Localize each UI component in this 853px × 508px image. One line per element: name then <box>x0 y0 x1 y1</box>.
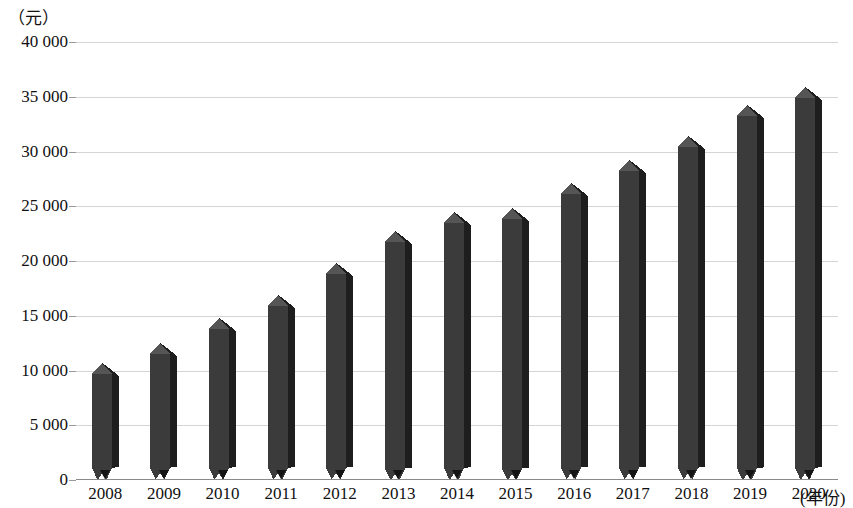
y-axis-tick-label: 0 <box>0 470 76 490</box>
x-axis-tick-mark <box>628 470 638 479</box>
y-axis-tick-mark <box>69 42 76 43</box>
x-axis-tick-mark <box>569 470 579 479</box>
y-axis-tick-labels: 40 00035 00030 00025 00020 00015 00010 0… <box>0 42 76 480</box>
bar-column <box>678 136 705 480</box>
plot-area <box>76 42 838 480</box>
bar-column <box>92 363 119 480</box>
x-axis-tick-label: 2015 <box>499 484 533 504</box>
bar-column <box>795 87 822 480</box>
bar-chart: （元） 40 00035 00030 00025 00020 00015 000… <box>0 0 853 508</box>
y-axis-tick-label: 35 000 <box>0 87 76 107</box>
x-axis-tick-label: 2014 <box>440 484 474 504</box>
x-axis-tick-mark <box>804 470 814 479</box>
x-axis-tick-mark <box>218 470 228 479</box>
bar-series <box>76 42 838 480</box>
y-axis-tick-mark <box>69 316 76 317</box>
bar-column <box>502 208 529 480</box>
x-axis: 2008200920102011201220132014201520162017… <box>76 480 838 508</box>
bar-column <box>561 183 588 480</box>
x-axis-tick-label: 2019 <box>733 484 767 504</box>
x-axis-tick-mark <box>452 470 462 479</box>
x-axis-tick-label: 2010 <box>206 484 240 504</box>
x-axis-tick-mark <box>159 470 169 479</box>
x-axis-tick-label: 2013 <box>381 484 415 504</box>
bar-column <box>385 231 412 480</box>
x-axis-tick-label: 2011 <box>264 484 297 504</box>
bar-column <box>444 212 471 480</box>
x-axis-tick-label: 2008 <box>88 484 122 504</box>
y-axis-tick-mark <box>69 371 76 372</box>
x-axis-tick-mark <box>335 470 345 479</box>
y-axis-tick-label: 25 000 <box>0 196 76 216</box>
y-axis-tick-mark <box>69 480 76 481</box>
y-axis-tick-mark <box>69 425 76 426</box>
y-axis-tick-label: 5 000 <box>0 415 76 435</box>
bar-column <box>150 343 177 480</box>
bar-column <box>209 318 236 480</box>
x-axis-tick-label: 2016 <box>557 484 591 504</box>
y-axis-title: （元） <box>8 4 59 29</box>
x-axis-tick-mark <box>745 470 755 479</box>
y-axis-tick-label: 30 000 <box>0 142 76 162</box>
x-axis-tick-mark <box>100 470 110 479</box>
bar-column <box>737 105 764 480</box>
bar-column <box>268 295 295 480</box>
x-axis-tick-label: 2009 <box>147 484 181 504</box>
y-axis-tick-mark <box>69 152 76 153</box>
y-axis-tick-mark <box>69 206 76 207</box>
y-axis-tick-mark <box>69 97 76 98</box>
x-axis-tick-mark <box>686 470 696 479</box>
y-axis-tick-mark <box>69 261 76 262</box>
x-axis-tick-label: 2017 <box>616 484 650 504</box>
bar-column <box>326 263 353 480</box>
y-axis-tick-label: 20 000 <box>0 251 76 271</box>
x-axis-tick-label: 2018 <box>674 484 708 504</box>
y-axis-tick-label: 15 000 <box>0 306 76 326</box>
x-axis-tick-mark <box>276 470 286 479</box>
x-axis-tick-mark <box>511 470 521 479</box>
x-axis-tick-label: 2012 <box>323 484 357 504</box>
x-axis-tick-mark <box>393 470 403 479</box>
y-axis-tick-label: 40 000 <box>0 32 76 52</box>
bar-column <box>619 160 646 480</box>
x-axis-title: (年份) <box>800 484 845 508</box>
y-axis-tick-label: 10 000 <box>0 361 76 381</box>
